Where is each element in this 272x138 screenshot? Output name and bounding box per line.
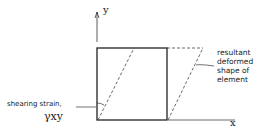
deformed-left-edge xyxy=(98,48,134,120)
x-axis-label: x xyxy=(230,118,236,127)
y-axis-label: y xyxy=(103,5,109,14)
deformed-label-line3: shape of xyxy=(217,66,253,75)
deformed-label-line1: resultant xyxy=(217,48,253,57)
deformed-label-line2: deformed xyxy=(217,57,253,66)
deformed-shape-label: resultant deformed shape of element xyxy=(217,48,253,84)
deformed-right-edge xyxy=(168,48,203,120)
deformed-leader-line xyxy=(196,65,214,66)
shearing-strain-symbol: γxy xyxy=(44,111,63,123)
deformed-label-line4: element xyxy=(217,75,253,84)
angle-arc xyxy=(97,103,104,105)
original-element-square xyxy=(97,48,167,120)
shearing-strain-label: shearing strain, xyxy=(7,100,62,109)
